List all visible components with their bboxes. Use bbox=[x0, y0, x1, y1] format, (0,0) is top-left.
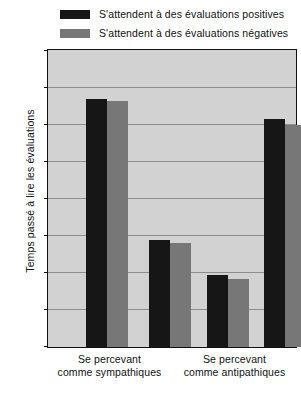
plot-area: 101112131415161718 bbox=[47, 49, 297, 348]
bar-cluster1-positives bbox=[86, 99, 107, 347]
bar-cluster4-positives bbox=[264, 119, 285, 347]
y-tick-mark-10 bbox=[44, 346, 48, 347]
bar-cluster2-negatives bbox=[170, 243, 191, 347]
legend-item-positives: S'attendent à des évaluations positives bbox=[60, 6, 300, 23]
x-label-0-line2: comme sympathiques bbox=[47, 366, 172, 379]
y-tick-mark-18 bbox=[44, 50, 48, 51]
legend-label-positives: S'attendent à des évaluations positives bbox=[99, 9, 284, 20]
y-tick-mark-16 bbox=[44, 124, 48, 125]
y-tick-mark-13 bbox=[44, 235, 48, 236]
bar-cluster1-negatives bbox=[107, 101, 128, 347]
bar-cluster3-negatives bbox=[228, 279, 249, 347]
gridline-17 bbox=[48, 87, 296, 88]
y-tick-mark-17 bbox=[44, 87, 48, 88]
y-tick-mark-12 bbox=[44, 272, 48, 273]
chart-figure: S'attendent à des évaluations positives … bbox=[0, 0, 301, 395]
x-label-0-line1: Se percevant bbox=[47, 353, 172, 366]
bar-cluster3-positives bbox=[207, 275, 228, 347]
bar-cluster2-positives bbox=[149, 240, 170, 347]
legend-swatch-positives bbox=[60, 10, 90, 19]
legend-swatch-negatives bbox=[60, 29, 90, 38]
x-label-1-line2: comme antipathiques bbox=[172, 366, 297, 379]
legend-label-negatives: S'attendent à des évaluations négatives bbox=[99, 28, 288, 39]
chart-legend: S'attendent à des évaluations positives … bbox=[60, 6, 300, 44]
bar-cluster4-negatives bbox=[285, 125, 301, 347]
x-label-0: Se percevant comme sympathiques bbox=[47, 353, 172, 379]
y-tick-mark-15 bbox=[44, 161, 48, 162]
y-tick-mark-14 bbox=[44, 198, 48, 199]
x-label-1-line1: Se percevant bbox=[172, 353, 297, 366]
x-label-1: Se percevant comme antipathiques bbox=[172, 353, 297, 379]
legend-item-negatives: S'attendent à des évaluations négatives bbox=[60, 25, 300, 42]
y-axis-title: Temps passé à lire les évaluations bbox=[24, 66, 36, 316]
y-tick-mark-11 bbox=[44, 309, 48, 310]
